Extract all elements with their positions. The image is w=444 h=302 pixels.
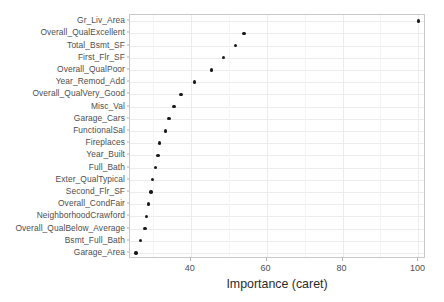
y-axis-tick-mark [127, 239, 129, 240]
y-axis-tick-label: Total_Bsmt_SF [67, 40, 125, 50]
y-axis-tick-mark [127, 68, 129, 69]
plot-panel [129, 14, 425, 258]
x-axis-tick-mark [190, 258, 191, 261]
data-point [179, 93, 182, 96]
y-axis-tick-label: Fireplaces [86, 137, 125, 147]
x-axis-tick-mark [417, 258, 418, 261]
data-point [139, 239, 142, 242]
y-axis-tick-mark [127, 178, 129, 179]
data-point [156, 154, 159, 157]
y-axis-tick-mark [127, 215, 129, 216]
x-axis-tick-label: 80 [336, 263, 346, 273]
y-axis-tick-mark [127, 166, 129, 167]
data-point [145, 215, 148, 218]
y-axis: Gr_Liv_AreaOverall_QualExcellentTotal_Bs… [0, 14, 125, 258]
gridline-vertical-minor [380, 15, 381, 257]
y-axis-tick-mark [127, 93, 129, 94]
y-axis-tick-label: Gr_Liv_Area [77, 15, 125, 25]
y-axis-tick-mark [127, 190, 129, 191]
gridline-vertical-major [343, 15, 344, 257]
gridline-vertical-minor [153, 15, 154, 257]
gridline-vertical-minor [305, 15, 306, 257]
y-axis-tick-mark [127, 154, 129, 155]
data-point [242, 32, 245, 35]
data-point [234, 44, 237, 47]
y-axis-tick-mark [127, 81, 129, 82]
y-axis-tick-label: Full_Bath [89, 162, 125, 172]
data-point [164, 129, 167, 132]
data-point [193, 80, 196, 83]
y-axis-tick-label: Misc_Val [91, 101, 125, 111]
gridline-vertical-major [191, 15, 192, 257]
gridline-vertical-major [267, 15, 268, 257]
y-axis-tick-mark [127, 227, 129, 228]
chart-container: Gr_Liv_AreaOverall_QualExcellentTotal_Bs… [0, 0, 444, 302]
data-point [158, 141, 161, 144]
y-axis-tick-mark [127, 203, 129, 204]
y-axis-tick-mark [127, 117, 129, 118]
y-axis-tick-mark [127, 129, 129, 130]
y-axis-tick-label: Garage_Area [74, 247, 125, 257]
y-axis-tick-label: Bsmt_Full_Bath [65, 235, 125, 245]
data-point [147, 202, 150, 205]
data-point [210, 68, 213, 71]
data-point [222, 56, 225, 59]
y-axis-tick-mark [127, 142, 129, 143]
x-axis-title: Importance (caret) [129, 277, 425, 291]
y-axis-tick-mark [127, 20, 129, 21]
y-axis-tick-label: Overall_QualBelow_Average [16, 223, 126, 233]
gridline-vertical-minor [229, 15, 230, 257]
x-axis-tick-label: 60 [261, 263, 271, 273]
y-axis-tick-label: Year_Remod_Add [56, 76, 125, 86]
data-point [172, 105, 175, 108]
x-axis-tick-label: 100 [410, 263, 425, 273]
data-point [417, 19, 420, 22]
y-axis-tick-label: Second_Flr_SF [66, 186, 125, 196]
y-axis-tick-mark [127, 251, 129, 252]
data-point [151, 178, 154, 181]
x-axis-tick-label: 40 [185, 263, 195, 273]
data-point [149, 190, 152, 193]
y-axis-tick-label: Exter_QualTypical [56, 174, 125, 184]
y-axis-tick-label: NeighborhoodCrawford [37, 210, 125, 220]
y-axis-tick-mark [127, 105, 129, 106]
gridline-vertical-major [418, 15, 419, 257]
y-axis-tick-label: FunctionalSal [73, 125, 125, 135]
y-axis-tick-label: Overall_CondFair [58, 198, 125, 208]
y-axis-tick-label: Year_Built [86, 149, 125, 159]
y-axis-tick-label: First_Flr_SF [78, 52, 125, 62]
data-point [167, 117, 170, 120]
data-point [134, 251, 137, 254]
x-axis-tick-mark [342, 258, 343, 261]
y-axis-tick-label: Overall_QualPoor [57, 64, 125, 74]
y-axis-tick-mark [127, 44, 129, 45]
data-point [143, 227, 146, 230]
x-axis-tick-mark [266, 258, 267, 261]
y-axis-tick-label: Overall_QualVery_Good [32, 88, 125, 98]
y-axis-tick-mark [127, 56, 129, 57]
y-axis-tick-label: Overall_QualExcellent [40, 27, 125, 37]
x-axis: 406080100 [0, 258, 444, 278]
data-point [154, 166, 157, 169]
y-axis-tick-mark [127, 32, 129, 33]
y-axis-tick-label: Garage_Cars [74, 113, 125, 123]
